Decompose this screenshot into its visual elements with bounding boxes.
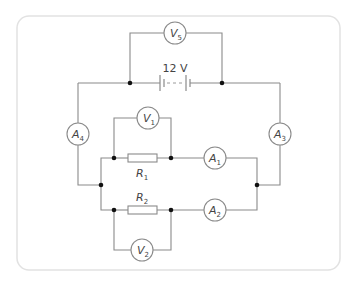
r2-subscript: 2 xyxy=(144,198,148,206)
ammeter-a2: A2 xyxy=(204,199,226,221)
ammeter-a1: A1 xyxy=(204,147,226,169)
voltmeter-v2: V2 xyxy=(131,239,153,261)
ammeter-a3: A3 xyxy=(269,123,291,145)
diagram-frame xyxy=(17,16,340,270)
battery-voltage-label: 12 V xyxy=(162,62,187,75)
voltmeter-v1: V1 xyxy=(137,107,159,129)
ammeter-a4: A4 xyxy=(67,123,89,145)
r1-letter: R xyxy=(136,167,144,180)
r1-subscript: 1 xyxy=(144,174,148,182)
voltmeter-v5: V5 xyxy=(164,22,186,44)
r2-letter: R xyxy=(136,191,144,204)
circuit-diagram: 12 V R1 R2 V5 V1 V2 A4 A3 A1 A2 xyxy=(0,0,356,281)
